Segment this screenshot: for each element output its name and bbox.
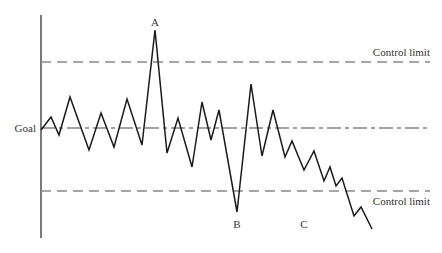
lcl-label: Control limit [373, 195, 430, 207]
control-chart: Control limit Control limit Goal A B C [0, 0, 442, 253]
annotation-c: C [300, 218, 307, 230]
annotation-b: B [233, 218, 240, 230]
ucl-label: Control limit [373, 46, 430, 58]
goal-label: Goal [15, 122, 36, 134]
annotation-a: A [151, 16, 159, 28]
process-series-line [41, 30, 372, 229]
